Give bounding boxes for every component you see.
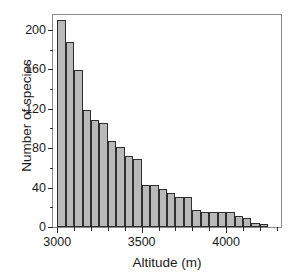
y-axis-minor-tick bbox=[50, 128, 53, 129]
histogram-bar bbox=[66, 42, 74, 227]
y-axis-minor-tick bbox=[50, 89, 53, 90]
x-axis-title: Altitude (m) bbox=[52, 255, 282, 270]
x-axis-minor-tick bbox=[192, 227, 193, 231]
y-axis-minor-tick bbox=[50, 207, 53, 208]
x-axis-minor-tick bbox=[277, 227, 278, 231]
x-axis-tick bbox=[57, 227, 58, 233]
histogram-figure: Number of species 0408012016020030003500… bbox=[0, 0, 298, 279]
bar-series bbox=[53, 15, 281, 227]
x-axis-minor-tick bbox=[74, 227, 75, 231]
x-axis-tick-label: 4000 bbox=[212, 235, 240, 249]
y-axis-tick-label: 80 bbox=[32, 141, 46, 155]
histogram-bar bbox=[167, 193, 175, 227]
histogram-bar bbox=[209, 212, 217, 227]
histogram-bar bbox=[142, 185, 150, 227]
histogram-bar bbox=[251, 223, 259, 227]
y-axis-minor-tick bbox=[50, 168, 53, 169]
x-axis-tick bbox=[226, 227, 227, 233]
y-axis-minor-tick bbox=[50, 50, 53, 51]
histogram-bar bbox=[201, 212, 209, 227]
histogram-bar bbox=[74, 70, 82, 227]
x-axis-minor-tick bbox=[175, 227, 176, 231]
x-axis-minor-tick bbox=[125, 227, 126, 231]
x-axis-minor-tick bbox=[260, 227, 261, 231]
histogram-bar bbox=[226, 212, 234, 227]
histogram-bar bbox=[125, 156, 133, 227]
y-axis-tick bbox=[48, 148, 53, 149]
histogram-bar bbox=[218, 212, 226, 227]
y-axis-tick-label: 0 bbox=[39, 220, 46, 234]
histogram-bar bbox=[116, 147, 124, 227]
x-axis-tick-label: 3500 bbox=[128, 235, 156, 249]
histogram-bar bbox=[192, 210, 200, 227]
y-axis-tick-label: 40 bbox=[32, 181, 46, 195]
histogram-bar bbox=[83, 110, 91, 227]
histogram-bar bbox=[91, 120, 99, 227]
histogram-bar bbox=[99, 123, 107, 227]
x-axis-minor-tick bbox=[159, 227, 160, 231]
histogram-bar bbox=[57, 20, 65, 227]
y-axis-tick bbox=[48, 188, 53, 189]
x-axis-minor-tick bbox=[91, 227, 92, 231]
y-axis-tick-label: 200 bbox=[25, 23, 46, 37]
y-axis-tick bbox=[48, 30, 53, 31]
histogram-bar bbox=[133, 159, 141, 227]
x-axis-minor-tick bbox=[209, 227, 210, 231]
y-axis-tick-label: 160 bbox=[25, 62, 46, 76]
histogram-bar bbox=[175, 197, 183, 227]
x-axis-minor-tick bbox=[108, 227, 109, 231]
y-axis-tick bbox=[48, 227, 53, 228]
x-axis-tick-label: 3000 bbox=[43, 235, 71, 249]
y-axis-tick-label: 120 bbox=[25, 102, 46, 116]
x-axis-tick bbox=[142, 227, 143, 233]
y-axis-tick bbox=[48, 109, 53, 110]
histogram-bar bbox=[150, 185, 158, 227]
y-axis-tick bbox=[48, 69, 53, 70]
histogram-bar bbox=[235, 216, 243, 227]
histogram-bar bbox=[243, 218, 251, 227]
histogram-bar bbox=[159, 189, 167, 227]
plot-area: 04080120160200300035004000 bbox=[52, 14, 282, 228]
x-axis-minor-tick bbox=[243, 227, 244, 231]
histogram-bar bbox=[184, 197, 192, 227]
histogram-bar bbox=[260, 224, 268, 227]
histogram-bar bbox=[108, 141, 116, 227]
